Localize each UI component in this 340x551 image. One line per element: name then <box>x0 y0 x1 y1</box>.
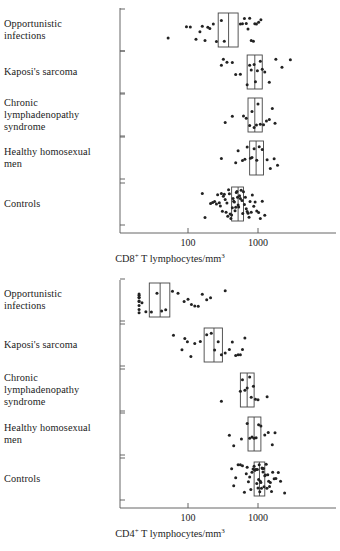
data-point <box>268 485 271 488</box>
data-point <box>249 488 252 491</box>
data-point <box>227 188 230 191</box>
data-point <box>212 22 215 25</box>
data-point <box>225 211 228 214</box>
data-point <box>263 70 266 73</box>
data-point <box>256 468 259 471</box>
data-point <box>220 157 223 160</box>
data-point <box>271 107 274 110</box>
cd8-panel: 1001000 Opportunistic infections Kaposi'… <box>0 0 340 272</box>
data-point <box>248 64 251 67</box>
data-point <box>231 61 234 64</box>
data-point <box>248 124 251 127</box>
cd8-category-labels: Opportunistic infections Kaposi's sarcom… <box>0 0 114 272</box>
data-point <box>241 348 244 351</box>
data-point <box>244 196 247 199</box>
data-point <box>274 477 277 480</box>
data-point <box>220 19 223 22</box>
series-3 <box>220 141 279 175</box>
data-point <box>253 465 256 468</box>
data-point <box>224 289 227 292</box>
data-point <box>237 149 240 152</box>
data-point <box>231 206 234 209</box>
data-point <box>209 296 212 299</box>
data-point <box>263 485 266 488</box>
data-point <box>258 463 261 466</box>
cd4-label-controls: Controls <box>4 473 112 485</box>
series-1 <box>172 328 246 362</box>
data-point <box>253 63 256 66</box>
data-point <box>217 340 220 343</box>
data-point <box>239 73 242 76</box>
data-point <box>220 400 223 403</box>
data-point <box>255 124 258 127</box>
cd4-panel: 1001000 Opportunistic infections Kaposi'… <box>0 272 340 551</box>
data-point <box>232 197 235 200</box>
data-point <box>241 22 244 25</box>
data-point <box>204 39 207 42</box>
x-tick-label-0: 100 <box>181 512 196 523</box>
data-point <box>218 201 221 204</box>
series-0 <box>138 283 227 317</box>
data-point <box>228 192 231 195</box>
data-point <box>250 156 253 159</box>
data-point <box>223 193 226 196</box>
data-point <box>138 296 141 299</box>
data-point <box>261 148 264 151</box>
data-point <box>220 353 223 356</box>
data-point <box>250 471 253 474</box>
data-point <box>242 114 245 117</box>
data-point <box>230 467 233 470</box>
data-point <box>269 481 272 484</box>
data-point <box>197 305 200 308</box>
data-point <box>213 200 216 203</box>
cd8-axis-title-rest: T lymphocytes/mm <box>139 253 222 264</box>
cd4-axis-title-main: CD4 <box>115 528 134 539</box>
data-point <box>277 471 280 474</box>
data-point <box>242 190 245 193</box>
data-point <box>257 487 260 490</box>
data-point <box>234 73 237 76</box>
data-point <box>245 117 248 120</box>
data-point <box>248 17 251 20</box>
data-point <box>198 30 201 33</box>
data-point <box>208 27 211 30</box>
data-point <box>243 491 246 494</box>
data-point <box>266 395 269 398</box>
data-point <box>239 353 242 356</box>
data-point <box>238 194 241 197</box>
data-point <box>177 292 180 295</box>
data-point <box>262 123 265 126</box>
data-point <box>225 201 228 204</box>
data-point <box>246 146 249 149</box>
data-point <box>263 433 266 436</box>
data-point <box>220 64 223 67</box>
data-point <box>268 81 271 84</box>
data-point <box>247 27 250 30</box>
data-point <box>276 164 279 167</box>
data-point <box>224 352 227 355</box>
series-2 <box>224 98 277 132</box>
x-tick-label-0: 100 <box>181 237 196 248</box>
data-point <box>230 214 233 217</box>
data-point <box>271 471 274 474</box>
data-point <box>248 376 251 379</box>
data-point <box>234 209 237 212</box>
data-point <box>254 80 257 83</box>
data-point <box>274 58 277 61</box>
data-point <box>257 21 260 24</box>
data-point <box>260 487 263 490</box>
data-point <box>246 386 249 389</box>
data-point <box>190 303 193 306</box>
data-point <box>254 200 257 203</box>
series-4 <box>230 462 286 496</box>
data-point <box>279 480 282 483</box>
data-point <box>255 482 258 485</box>
data-point <box>219 204 222 207</box>
data-point <box>215 40 218 43</box>
data-point <box>193 342 196 345</box>
data-point <box>171 290 174 293</box>
data-point <box>250 68 253 71</box>
data-point <box>233 200 236 203</box>
x-tick-label-1: 1000 <box>248 512 268 523</box>
data-point <box>262 467 265 470</box>
